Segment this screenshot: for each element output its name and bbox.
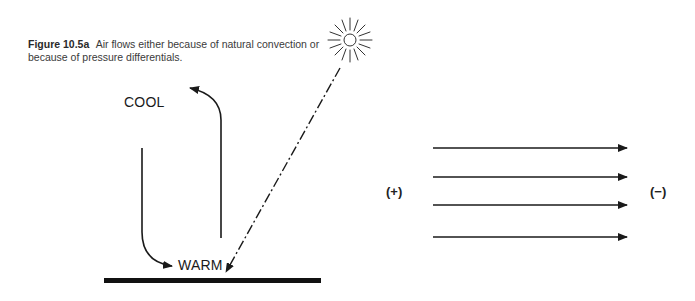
- high-pressure-label: (+): [386, 184, 402, 199]
- diagram-canvas: [0, 0, 695, 301]
- cool-descending-arrow: [142, 148, 172, 266]
- sun-icon: [328, 18, 372, 62]
- warm-label: WARM: [178, 257, 223, 273]
- ground-bar: [104, 278, 321, 283]
- low-pressure-label: (−): [650, 184, 666, 199]
- pressure-flow-arrows: [433, 148, 627, 237]
- cool-label: COOL: [124, 94, 164, 110]
- sunray-line: [226, 68, 340, 272]
- warm-rising-arrow: [190, 88, 221, 238]
